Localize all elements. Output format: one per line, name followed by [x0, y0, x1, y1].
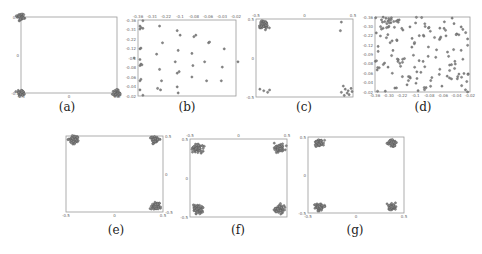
y-tick-label: -0.08 [126, 65, 137, 70]
y-tick-label: 0.5 [300, 135, 307, 140]
y-tick-label: -0.02 [363, 90, 374, 95]
y-tick-label: -0.22 [126, 37, 137, 42]
x-tick-label: -0.5 [62, 213, 70, 218]
y-tick-label: -0.5 [165, 210, 173, 215]
y-tick-label: 0 [251, 56, 254, 61]
x-tick-label: -0.02 [231, 14, 242, 19]
x-tick-label: -0.03 [217, 14, 228, 19]
scatter-plot-c: -0.500.50.50-0.5 [256, 19, 353, 97]
y-tick-label: -0.04 [363, 80, 374, 85]
y-tick-label: -0.06 [363, 71, 374, 76]
x-tick-label: -0.06 [203, 14, 214, 19]
y-tick-label: -0.36 [126, 18, 137, 23]
x-tick-label: -0.04 [451, 93, 462, 98]
y-tick-label: -0.12 [126, 46, 137, 51]
caption-f: (f) [218, 223, 258, 237]
y-tick-label: 0 [16, 53, 19, 58]
caption-d: (d) [403, 100, 443, 114]
y-tick-label: 0 [303, 173, 306, 178]
x-tick-label: 0 [237, 133, 240, 138]
scatter-plot-g: -0.500.50.50-0.5 [308, 137, 404, 213]
scatter-plot-a: -0.500.50.50-0.5 [21, 17, 117, 93]
x-tick-label: -0.06 [438, 93, 449, 98]
y-tick-label: 0 [165, 172, 168, 177]
y-tick-label: -0.30 [363, 24, 374, 29]
subplot-f: -0.500.50.50-0.5 [190, 139, 287, 217]
scatter-plot-b: -0.36-0.31-0.22-0.1-0.08-0.06-0.03-0.02-… [138, 20, 236, 96]
subplot-e: -0.500.50.50-0.5 [66, 136, 163, 212]
x-tick-label: -0.22 [397, 93, 408, 98]
x-tick-label: 0 [355, 214, 358, 219]
y-tick-label: -0.06 [126, 75, 137, 80]
x-tick-label: -0.02 [465, 93, 476, 98]
y-tick-label: -0.09 [363, 52, 374, 57]
subplot-b: -0.36-0.31-0.22-0.1-0.08-0.06-0.03-0.02-… [138, 20, 236, 96]
x-tick-label: -0.08 [424, 93, 435, 98]
caption-c: (c) [284, 100, 324, 114]
subplot-c: -0.500.50.50-0.5 [256, 19, 353, 97]
x-tick-label: 0.5 [350, 13, 357, 18]
x-tick-label: -0.08 [189, 14, 200, 19]
y-tick-label: -0.5 [298, 211, 306, 216]
y-tick-label: 0 [185, 176, 188, 181]
caption-a: (a) [47, 100, 87, 114]
caption-b: (b) [167, 100, 207, 114]
axes-frame [21, 17, 117, 93]
x-tick-label: -0.1 [412, 93, 420, 98]
y-tick-label: 0.5 [165, 134, 172, 139]
y-tick-label: -0.36 [363, 15, 374, 20]
axes-frame [375, 17, 470, 92]
x-tick-label: -0.22 [161, 14, 172, 19]
y-tick-label: -0.22 [363, 33, 374, 38]
y-tick-label: 0.5 [248, 17, 255, 22]
subplot-d: -0.36-0.30-0.22-0.1-0.08-0.06-0.04-0.02-… [375, 17, 470, 92]
x-tick-label: -0.1 [176, 14, 184, 19]
caption-g: (g) [335, 223, 375, 237]
subplot-g: -0.500.50.50-0.5 [308, 137, 404, 213]
y-tick-label: -0.5 [246, 95, 254, 100]
y-tick-label: -0.12 [363, 43, 374, 48]
x-tick-label: 0 [113, 213, 116, 218]
x-tick-label: 0.5 [284, 133, 291, 138]
y-tick-label: 0.5 [182, 137, 189, 142]
axes-frame [256, 19, 353, 97]
y-tick-label: -0.31 [126, 27, 137, 32]
x-tick-label: -0.31 [147, 14, 158, 19]
x-tick-label: 0.5 [401, 214, 408, 219]
y-tick-label: -0.04 [126, 84, 137, 89]
x-tick-label: 0 [68, 94, 71, 99]
x-tick-label: 0 [303, 13, 306, 18]
axes-frame [308, 137, 404, 213]
scatter-plot-f: -0.500.50.50-0.5 [190, 139, 287, 217]
x-tick-label: -0.30 [383, 93, 394, 98]
axes-frame [138, 20, 236, 96]
scatter-plot-e: -0.500.50.50-0.5 [66, 136, 163, 212]
caption-e: (e) [96, 223, 136, 237]
axes-frame [190, 139, 287, 217]
scatter-plot-d: -0.36-0.30-0.22-0.1-0.08-0.06-0.04-0.02-… [375, 17, 470, 92]
y-tick-label: -0.08 [363, 61, 374, 66]
axes-frame [66, 136, 163, 212]
y-tick-label: -0.02 [126, 94, 137, 99]
y-tick-label: -0.5 [180, 215, 188, 220]
subplot-a: -0.500.50.50-0.5 [21, 17, 117, 93]
